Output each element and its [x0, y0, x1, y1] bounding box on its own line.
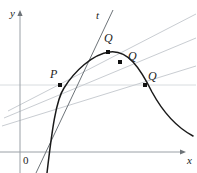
point-label-q2: Q — [128, 50, 137, 62]
secant-line-3 — [2, 66, 196, 126]
math-figure-canvas: y x 0 t P Q Q Q — [0, 0, 197, 173]
tangent-line — [36, 10, 113, 173]
point-marker-p — [58, 83, 62, 87]
secant-line-1 — [8, 14, 196, 111]
y-axis-label: y — [10, 8, 15, 19]
y-axis-arrowhead — [17, 10, 22, 16]
figure-svg — [0, 0, 197, 173]
point-label-p: P — [50, 68, 57, 80]
x-axis-label: x — [187, 155, 192, 166]
axes-group — [0, 10, 186, 173]
tangent-line-label: t — [96, 10, 99, 21]
origin-label: 0 — [23, 155, 29, 166]
point-marker-q1 — [106, 50, 110, 54]
x-axis-arrowhead — [180, 149, 186, 154]
point-marker-q3 — [143, 83, 147, 87]
point-label-q3: Q — [148, 70, 157, 82]
point-label-q1: Q — [104, 32, 113, 44]
point-marker-q2 — [118, 60, 122, 64]
secant-line-2 — [4, 38, 196, 118]
